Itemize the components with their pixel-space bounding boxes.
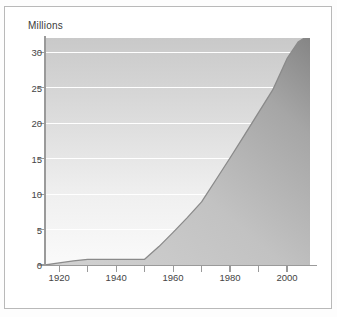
chart-screenshot: Millions bbox=[0, 0, 337, 317]
x-tick-label: 1980 bbox=[219, 272, 240, 283]
x-tick-label: 2000 bbox=[276, 272, 297, 283]
y-tick-label: 25 bbox=[20, 82, 42, 93]
area-chart: Millions bbox=[0, 0, 337, 317]
x-tick-label: 1960 bbox=[163, 272, 184, 283]
y-tick-labels: 0 5 10 15 20 25 30 bbox=[18, 0, 42, 317]
x-tick-marks bbox=[59, 266, 287, 272]
chart-svg bbox=[0, 0, 337, 317]
y-tick-label: 0 bbox=[20, 260, 42, 271]
x-tick-label: 1940 bbox=[106, 272, 127, 283]
y-tick-label: 10 bbox=[20, 189, 42, 200]
y-tick-label: 5 bbox=[20, 224, 42, 235]
x-tick-label: 1920 bbox=[49, 272, 70, 283]
y-tick-label: 30 bbox=[20, 47, 42, 58]
y-tick-label: 15 bbox=[20, 153, 42, 164]
y-tick-label: 20 bbox=[20, 118, 42, 129]
